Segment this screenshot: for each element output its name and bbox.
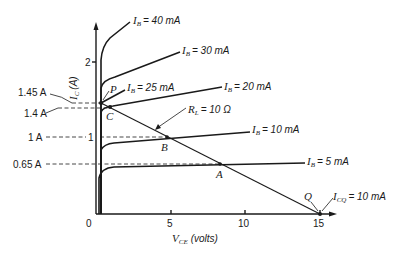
leader-icq <box>322 198 333 211</box>
label-point-B: B <box>161 141 168 153</box>
label-ib-30ma: IB= 30 mA <box>181 44 230 58</box>
curve-ib-30ma <box>101 52 180 214</box>
x-tick-label-10: 10 <box>238 218 250 229</box>
svg-text:IC(A): IC(A) <box>67 76 81 101</box>
y-axis-arrow <box>94 22 99 30</box>
point-Q <box>318 212 322 216</box>
leader-1.4A <box>46 108 58 113</box>
point-B <box>165 135 169 139</box>
label-point-C: C <box>106 110 114 122</box>
curve-ib-5ma <box>99 163 305 214</box>
x-axis-label: VCE(volts) <box>172 232 218 246</box>
label-0.65A: 0.65 A <box>13 159 42 170</box>
y-tick-label-2: 2 <box>85 57 91 68</box>
label-point-A: A <box>215 168 223 180</box>
y-axis-label: IC(A) <box>67 76 81 101</box>
x-tick-label-15: 15 <box>313 218 325 229</box>
transistor-characteristics-diagram: 2 1 0 5 10 15 IC(A) VCE(volts) 1.45 A 1.… <box>0 0 405 257</box>
label-icq: ICQ= 10 mA <box>332 190 386 204</box>
y-tick-label-1: 1 <box>88 132 94 143</box>
leader-load-line <box>157 108 186 128</box>
label-ib-40ma: IB= 40 mA <box>132 14 181 28</box>
point-C <box>108 105 112 109</box>
curve-ib-10ma <box>101 132 250 214</box>
load-line <box>101 103 320 214</box>
label-ib-10ma: IB= 10 mA <box>251 123 300 137</box>
x-tick-label-5: 5 <box>167 218 173 229</box>
x-tick-label-0: 0 <box>86 218 92 229</box>
label-1A: 1 A <box>28 132 43 143</box>
point-P <box>99 101 103 105</box>
label-ib-25ma: IB= 25 mA <box>126 81 175 95</box>
label-ib-5ma: IB= 5 mA <box>306 155 349 169</box>
label-point-P: P <box>109 83 117 95</box>
point-A <box>218 162 222 166</box>
label-load-line: RL= 10 Ω <box>187 103 231 117</box>
label-ib-20ma: IB= 20 mA <box>223 80 272 94</box>
label-1.4A: 1.4 A <box>24 108 47 119</box>
x-axis-arrow <box>329 212 337 217</box>
label-1.45A: 1.45 A <box>18 87 47 98</box>
label-point-Q: Q <box>304 190 312 202</box>
leader-load-arrow <box>155 124 161 130</box>
